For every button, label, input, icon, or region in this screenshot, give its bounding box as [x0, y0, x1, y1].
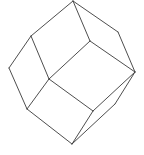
edge-lower-left-to-center — [27, 79, 49, 109]
polyhedron-diagram — [0, 0, 144, 155]
edge-top-to-upper-left — [31, 1, 73, 36]
edge-center-to-inner-top — [49, 41, 90, 79]
edge-lower-left-to-bottom — [27, 109, 72, 144]
edge-upper-left-to-center — [31, 36, 49, 79]
edge-center-to-inner-bottom — [49, 79, 93, 111]
polyhedron-edges — [9, 1, 135, 144]
edge-upper-left-to-left — [9, 36, 31, 68]
edge-left-to-lower-left — [9, 68, 27, 109]
